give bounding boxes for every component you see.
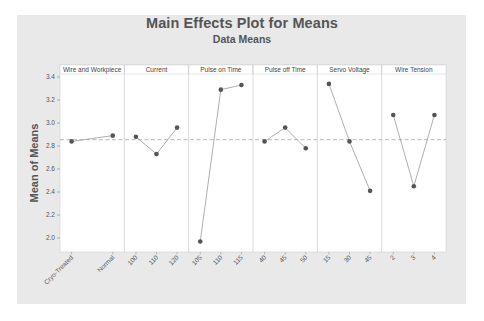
data-point	[368, 189, 373, 194]
data-point	[347, 139, 352, 144]
x-tick-label: 115	[232, 253, 245, 266]
panel-label: Pulse off Time	[265, 66, 306, 73]
x-tick-label: 2	[388, 253, 396, 261]
x-tick-label: 40	[257, 253, 267, 263]
data-point	[412, 184, 417, 189]
y-tick-label: 2.4	[46, 188, 55, 195]
data-point	[110, 133, 115, 138]
data-point	[69, 139, 74, 144]
panel-label: Wire and Workpiece	[63, 66, 122, 74]
x-tick-label: 110	[211, 253, 224, 266]
panel-label: Servo Voltage	[329, 66, 370, 74]
data-point	[303, 146, 308, 151]
data-point	[134, 135, 139, 140]
x-tick-label: Cryo-Treated	[42, 253, 75, 286]
x-tick-label: 110	[147, 253, 160, 266]
data-point	[283, 125, 288, 130]
data-point	[391, 113, 396, 118]
x-tick-label: 120	[167, 253, 180, 266]
data-point	[327, 82, 332, 87]
x-tick-label: 30	[342, 253, 352, 263]
y-tick-label: 2.8	[46, 142, 55, 149]
data-point	[175, 125, 180, 130]
x-tick-label: 3	[409, 253, 417, 261]
y-tick-label: 3.4	[46, 73, 55, 80]
data-point	[239, 83, 244, 88]
y-tick-label: 3.2	[46, 96, 55, 103]
x-tick-label: 15	[322, 253, 332, 263]
x-tick-label: 45	[363, 253, 373, 263]
y-axis-label: Mean of Means	[28, 124, 40, 203]
panel-label: Pulse on Time	[200, 66, 242, 73]
data-point	[262, 139, 267, 144]
data-point	[219, 87, 224, 92]
y-tick-label: 2.2	[46, 211, 55, 218]
y-tick-label: 2.0	[46, 234, 55, 241]
y-tick-label: 2.6	[46, 165, 55, 172]
panel-label: Current	[146, 66, 168, 73]
y-tick-label: 3.0	[46, 119, 55, 126]
data-point	[198, 239, 203, 244]
x-tick-label: Normal	[96, 253, 116, 273]
x-tick-label: 4	[430, 253, 438, 261]
data-point	[154, 152, 159, 157]
x-tick-label: 45	[278, 253, 288, 263]
x-tick-label: 100	[126, 253, 139, 266]
x-tick-label: 50	[298, 253, 308, 263]
panel-label: Wire Tension	[395, 66, 433, 73]
main-effects-plot: 2.02.22.42.62.83.03.23.4Mean of MeansWir…	[0, 0, 484, 321]
x-tick-label: 105	[190, 253, 203, 266]
data-point	[432, 113, 437, 118]
